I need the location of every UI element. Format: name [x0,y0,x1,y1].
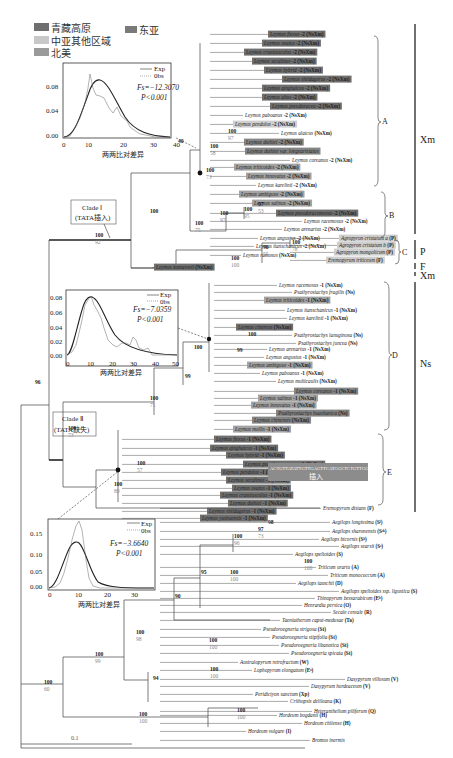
taxon-label: Aegilops speltoides (S) [160,551,343,558]
bootstrap-value: 100 [150,208,159,214]
legend-label-north-america: 北美 [51,47,71,59]
taxon-label: Leymus cinereus (NsXm) [214,324,293,331]
posterior-value: 100 [304,565,313,571]
bootstrap-value: 100 [228,128,237,134]
svg-text:Hordeum bogdanii (H): Hordeum bogdanii (H) [278,712,327,719]
svg-text:Leymus racemosus -2 (NsXm): Leymus racemosus -2 (NsXm) [303,218,368,225]
svg-text:Leymus pseudoracemosus -2 (NsX: Leymus pseudoracemosus -2 (NsXm) [277,210,357,217]
posterior-value: 96 [234,540,240,546]
taxon-label: Crithopsis delileana (K) [160,698,341,705]
taxon-label: Pseudoroegneria libanotica (St) [160,642,349,649]
svg-text:Leymus arenarius -1 (NsXm): Leymus arenarius -1 (NsXm) [268,346,331,353]
taxon-label: Leymus tianschanicus -1 (NsXm) [214,307,357,314]
subclade-label-A: A [382,117,388,126]
taxon-label: Leymus mollis -1 (NsXm) [214,426,291,433]
svg-text:(TATA插入): (TATA插入) [75,213,111,222]
svg-text:0: 0 [48,591,52,599]
svg-text:Aegilops speltoides (S): Aegilops speltoides (S) [294,551,343,558]
clade2-box: Clade Ⅱ (TATA缺失) [53,412,96,436]
svg-text:Leymus multicaulis (NsXm): Leymus multicaulis (NsXm) [277,378,337,385]
svg-text:P<0.001: P<0.001 [140,93,168,102]
genome-label-Ns: Ns [420,358,431,369]
svg-text:Leymus tianschanicus -1 (NsXm): Leymus tianschanicus -1 (NsXm) [286,307,357,314]
taxon-label: Psathyrostachys lanuginosa (Ns) [214,332,363,339]
bootstrap-value: 90 [263,244,269,250]
taxon-label: Aegilops speltoides ssp. ligustica (S) [160,588,418,595]
taxon-label: Leymus ovatus -2 (NsXm) [210,40,321,47]
svg-text:Hordeum chilense (H): Hordeum chilense (H) [303,720,351,727]
bootstrap-value: 100 [220,210,229,216]
taxon-label: Leymus karelinii -2 (NsXm) [210,182,317,189]
taxon-label: Leymus shiidagerus -1 (NsXm) [122,508,277,515]
svg-text:0: 0 [66,360,70,368]
posterior-value: 78 [292,246,298,252]
inset1-x-end: 40 [178,138,184,144]
svg-text:P<0.001: P<0.001 [115,549,143,558]
svg-text:Leymus mollis -1 (NsXm): Leymus mollis -1 (NsXm) [234,426,289,433]
svg-text:Leymus triticoides -2 (NsXm): Leymus triticoides -2 (NsXm) [235,164,299,171]
taxon-label: Aegilops sharonensis (Sˢʰ) [160,528,387,535]
taxon-label: Aegilops searsii (Sˢ) [160,543,383,550]
taxon-label: Leymus innovatus -1 (NsXm) [214,402,317,409]
svg-text:10: 10 [87,360,95,368]
svg-text:Taeniatherum caput-medusae (Ta: Taeniatherum caput-medusae (Ta) [282,617,354,624]
bootstrap-value: 100 [237,707,246,713]
taxon-label: Leymus pendulus -2 (NsXm) [210,121,297,128]
taxon-label: Aegilops tauschii (D) [160,580,343,587]
svg-text:Leymus arenarius -2 (NsXm): Leymus arenarius -2 (NsXm) [283,226,346,233]
taxon-label: Leymus pseudoracemosus -2 (NsXm) [210,210,358,217]
bootstrap-value: 100 [68,425,77,431]
taxon-label: Leymus komarovii (NsXm) [152,264,215,271]
svg-text:Leymus angustus -1 (NsXm): Leymus angustus -1 (NsXm) [265,354,326,361]
svg-text:0.1: 0.1 [71,735,79,741]
svg-text:Hordeum vulgare (I): Hordeum vulgare (I) [247,728,291,735]
taxon-label: Leymus pseudoraceu -2 (NsXm) [210,103,342,110]
taxon-label: Taeniatherum caput-medusae (Ta) [160,617,354,624]
taxon-label: Bromus inermis [160,737,345,743]
legend-label-east-asia: 东亚 [139,24,159,36]
bootstrap-value: 100 [150,395,159,401]
posterior-value: 75 [195,227,201,233]
bootstrap-value: 100 [139,711,148,717]
bootstrap-value: 100 [44,679,53,685]
svg-text:Leymus cinereus (NsXm): Leymus cinereus (NsXm) [237,324,291,331]
svg-text:Leymus ovatus -1 (NsXm): Leymus ovatus -1 (NsXm) [233,485,289,492]
posterior-value: 73 [258,533,264,539]
svg-text:Triticum urartu (A): Triticum urartu (A) [318,564,359,571]
svg-text:Leymus altus -2 (NsXm): Leymus altus -2 (NsXm) [263,94,316,101]
taxon-label: Leymus ovatus -1 (NsXm) [122,485,291,492]
posterior-value: 73 [206,174,212,180]
bootstrap-value: 100 [231,255,240,261]
legend-label-central-asia: 中亚其他区域 [51,35,111,47]
svg-text:Aegilops searsii (Sˢ): Aegilops searsii (Sˢ) [340,543,383,550]
svg-text:0.06: 0.06 [50,309,63,317]
taxon-label: Leymus qinghaicus -2 (NsXm) [210,85,330,92]
svg-text:20: 20 [120,141,128,149]
bootstrap-value: 100 [206,167,215,173]
svg-text:两两比对差异: 两两比对差异 [102,150,144,159]
svg-text:Leymus duthiei var. longearist: Leymus duthiei var. longearistatus [246,148,318,154]
taxon-label: Leymus pendulus -1 (NsXm) [122,469,285,476]
svg-text:Fs=−12.3070: Fs=−12.3070 [136,83,179,92]
svg-text:0.08: 0.08 [46,83,59,91]
svg-text:Leymus crassiusculus -1 (NsXm): Leymus crassiusculus -1 (NsXm) [221,492,292,499]
legend-swatch-north-america [34,48,49,56]
svg-text:Leymus shiidagerus -2 (NsXm): Leymus shiidagerus -2 (NsXm) [283,76,350,83]
bootstrap-value: 94 [153,675,159,681]
bootstrap-value: 99 [185,373,191,379]
svg-text:Leymus qinghaicus -2 (NsXm): Leymus qinghaicus -2 (NsXm) [263,85,328,92]
svg-text:Leymus hybrid -2 (NsXm): Leymus hybrid -2 (NsXm) [265,67,321,74]
taxon-label: Leymus coreanus -2 (NsXm) [210,157,352,164]
taxon-label: Leymus racemosus -1 (NsXm) [214,282,343,289]
svg-text:Agropyron mongolicum (P): Agropyron mongolicum (P) [335,249,393,256]
legend-swatch-tibet [34,23,49,31]
posterior-value: 71 [150,402,156,408]
svg-text:10: 10 [75,591,83,599]
svg-text:Leymus karelinii -2 (NsXm): Leymus karelinii -2 (NsXm) [257,182,317,189]
svg-text:Agropyron cristatum b (P): Agropyron cristatum b (P) [338,242,394,249]
svg-text:0: 0 [62,141,66,149]
legend-swatch-central-asia [34,36,49,44]
svg-text:0.00: 0.00 [50,352,63,360]
svg-text:20: 20 [104,591,112,599]
taxon-label: Leymus secalinus -1 (NsXm) [122,477,291,484]
